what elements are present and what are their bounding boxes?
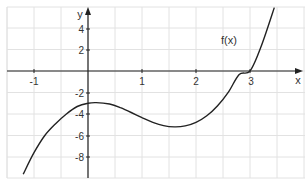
x-axis-label: x bbox=[295, 74, 301, 86]
x-tick-label: -1 bbox=[30, 76, 39, 87]
x-axis bbox=[7, 68, 303, 74]
grid bbox=[7, 7, 305, 178]
y-tick-label: -2 bbox=[75, 88, 84, 99]
y-tick-label: -8 bbox=[75, 152, 84, 163]
y-axis-arrow-icon bbox=[85, 7, 91, 15]
function-plot: -1 1 2 3 4 2 -2 -4 -6 -8 x y f(x) bbox=[0, 0, 305, 184]
y-tick-label: 2 bbox=[78, 45, 84, 56]
x-tick-label: 3 bbox=[248, 76, 254, 87]
curve-label: f(x) bbox=[221, 34, 237, 46]
y-tick-label: -4 bbox=[75, 109, 84, 120]
y-tick-label: 4 bbox=[78, 24, 84, 35]
x-tick-label: 2 bbox=[193, 76, 199, 87]
y-tick-label: -6 bbox=[75, 131, 84, 142]
x-tick-label: 1 bbox=[139, 76, 145, 87]
y-axis-label: y bbox=[77, 8, 83, 20]
